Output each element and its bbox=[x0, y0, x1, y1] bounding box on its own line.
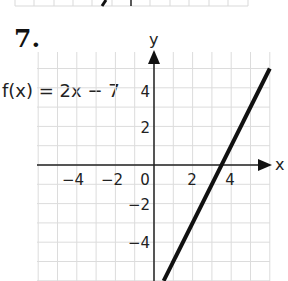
x-tick-label: −2 bbox=[101, 171, 123, 189]
x-tick-label: 4 bbox=[225, 171, 235, 189]
coordinate-plane: x y −4 −2 0 2 4 4 2 −2 −4 bbox=[0, 0, 288, 281]
x-tick-label: 0 bbox=[140, 171, 150, 189]
y-tick-label: 2 bbox=[140, 119, 150, 137]
x-axis-label: x bbox=[275, 155, 284, 174]
function-line bbox=[164, 69, 270, 281]
y-tick-label: −4 bbox=[128, 234, 150, 252]
x-tick-label: −4 bbox=[62, 171, 84, 189]
x-tick-label: 2 bbox=[187, 171, 197, 189]
y-tick-label: 4 bbox=[140, 83, 150, 101]
y-axis-label: y bbox=[149, 30, 158, 49]
y-axis-arrow-icon bbox=[148, 50, 160, 64]
y-tick-label: −2 bbox=[128, 196, 150, 214]
